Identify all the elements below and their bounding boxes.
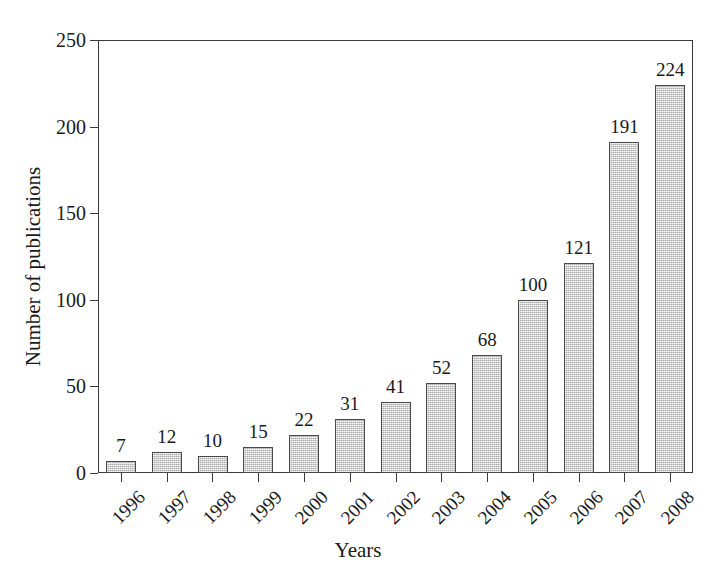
bar-group: 224 bbox=[647, 40, 693, 473]
x-axis-tick bbox=[624, 473, 625, 482]
x-axis-tick bbox=[121, 473, 122, 482]
bar-value-label: 224 bbox=[655, 60, 685, 79]
y-axis-tick bbox=[90, 386, 98, 387]
y-axis-tick-label: 100 bbox=[26, 290, 86, 310]
x-axis-tick bbox=[579, 473, 580, 482]
bar[interactable] bbox=[564, 263, 594, 473]
bar-value-label: 41 bbox=[381, 377, 411, 396]
y-axis-tick bbox=[90, 213, 98, 214]
bar-value-label: 68 bbox=[472, 330, 502, 349]
y-axis-tick bbox=[90, 300, 98, 301]
x-axis-tick bbox=[396, 473, 397, 482]
bars-layer: 71210152231415268100121191224 bbox=[98, 40, 693, 473]
y-axis-tick bbox=[90, 40, 98, 41]
x-axis-tick bbox=[258, 473, 259, 482]
bar[interactable] bbox=[472, 355, 502, 473]
y-axis-tick-label: 0 bbox=[26, 463, 86, 483]
bar-group: 10 bbox=[190, 40, 236, 473]
bar-value-label: 52 bbox=[426, 358, 456, 377]
bar-value-label: 22 bbox=[289, 410, 319, 429]
bar[interactable] bbox=[335, 419, 365, 473]
x-axis-tick bbox=[441, 473, 442, 482]
x-axis-tick bbox=[167, 473, 168, 482]
y-axis-tick-label: 250 bbox=[26, 30, 86, 50]
bar[interactable] bbox=[381, 402, 411, 473]
bar-value-label: 7 bbox=[106, 436, 136, 455]
bar-value-label: 31 bbox=[335, 394, 365, 413]
y-axis-tick bbox=[90, 473, 98, 474]
x-axis-tick bbox=[350, 473, 351, 482]
bar[interactable] bbox=[243, 447, 273, 473]
y-axis-tick-label: 200 bbox=[26, 117, 86, 137]
bar-group: 121 bbox=[556, 40, 602, 473]
x-axis-tick bbox=[212, 473, 213, 482]
bar-group: 12 bbox=[144, 40, 190, 473]
bar[interactable] bbox=[106, 461, 136, 473]
bar-group: 41 bbox=[373, 40, 419, 473]
bar-group: 100 bbox=[510, 40, 556, 473]
y-axis-tick-label: 150 bbox=[26, 203, 86, 223]
bar[interactable] bbox=[426, 383, 456, 473]
bar[interactable] bbox=[289, 435, 319, 473]
bar-value-label: 15 bbox=[243, 422, 273, 441]
y-axis-tick-label: 50 bbox=[26, 376, 86, 396]
y-axis: 050100150200250 bbox=[10, 0, 86, 579]
bar-group: 22 bbox=[281, 40, 327, 473]
bar-value-label: 100 bbox=[518, 275, 548, 294]
x-axis-tick bbox=[670, 473, 671, 482]
bar-group: 68 bbox=[464, 40, 510, 473]
bar-value-label: 12 bbox=[152, 427, 182, 446]
bar[interactable] bbox=[198, 456, 228, 473]
bar-chart-figure: Number of publications 050100150200250 7… bbox=[0, 0, 716, 579]
bar-value-label: 191 bbox=[609, 117, 639, 136]
bar[interactable] bbox=[655, 85, 685, 473]
bar-group: 7 bbox=[98, 40, 144, 473]
bar-value-label: 121 bbox=[564, 238, 594, 257]
bar[interactable] bbox=[518, 300, 548, 473]
x-axis-tick bbox=[487, 473, 488, 482]
x-axis-tick bbox=[533, 473, 534, 482]
bar[interactable] bbox=[609, 142, 639, 473]
y-axis-tick bbox=[90, 127, 98, 128]
bar-group: 191 bbox=[601, 40, 647, 473]
bar-group: 52 bbox=[418, 40, 464, 473]
bar-group: 15 bbox=[235, 40, 281, 473]
x-axis-title: Years bbox=[0, 540, 716, 561]
x-axis-tick bbox=[304, 473, 305, 482]
bar-value-label: 10 bbox=[198, 431, 228, 450]
bar-group: 31 bbox=[327, 40, 373, 473]
bar[interactable] bbox=[152, 452, 182, 473]
